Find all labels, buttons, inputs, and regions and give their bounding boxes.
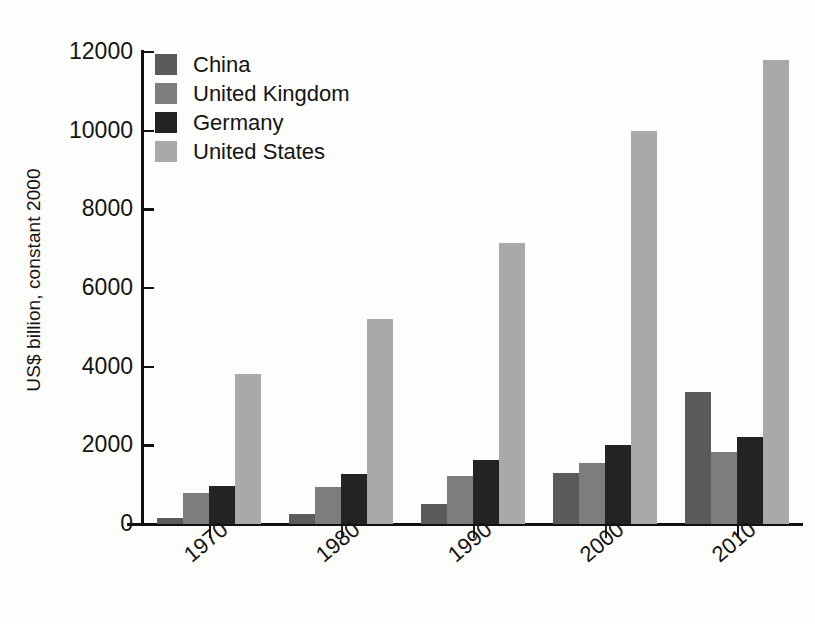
y-axis-tick-label: 6000	[82, 274, 133, 300]
y-axis-tick-label: 12000	[69, 38, 133, 64]
bar-united-kingdom	[447, 476, 473, 524]
bar-united-states	[631, 131, 657, 524]
bar-chart: US$ billion, constant 2000 0200040006000…	[0, 0, 815, 624]
legend-item: United States	[155, 137, 455, 166]
bar-china	[421, 504, 447, 524]
legend-swatch	[155, 112, 177, 133]
bar-germany	[473, 460, 499, 524]
legend-item: China	[155, 50, 455, 79]
legend-swatch	[155, 141, 177, 162]
bar-united-states	[235, 374, 261, 524]
bar-china	[553, 473, 579, 524]
legend-item: Germany	[155, 108, 455, 137]
bar-united-kingdom	[183, 493, 209, 524]
legend-swatch	[155, 83, 177, 104]
y-axis-tick-label: 2000	[82, 431, 133, 457]
chart-legend: ChinaUnited KingdomGermanyUnited States	[155, 50, 455, 166]
bar-united-states	[499, 243, 525, 524]
legend-item: United Kingdom	[155, 79, 455, 108]
bar-china	[685, 392, 711, 524]
bar-china	[289, 514, 315, 524]
legend-label: China	[193, 54, 250, 76]
bar-germany	[737, 437, 763, 524]
y-axis-tick-label: 8000	[82, 195, 133, 221]
bar-germany	[341, 474, 367, 524]
legend-swatch	[155, 54, 177, 75]
legend-label: United States	[193, 141, 325, 163]
y-axis-ticks: 020004000600080001000012000	[0, 52, 141, 524]
bar-united-states	[367, 319, 393, 524]
bar-united-kingdom	[579, 463, 605, 524]
bar-germany	[605, 445, 631, 524]
bar-united-kingdom	[711, 452, 737, 524]
bar-united-kingdom	[315, 487, 341, 524]
y-axis-tick-label: 4000	[82, 353, 133, 379]
legend-label: Germany	[193, 112, 283, 134]
y-axis-tick-label: 10000	[69, 117, 133, 143]
bar-china	[157, 518, 183, 524]
bar-united-states	[763, 60, 789, 524]
legend-label: United Kingdom	[193, 83, 350, 105]
